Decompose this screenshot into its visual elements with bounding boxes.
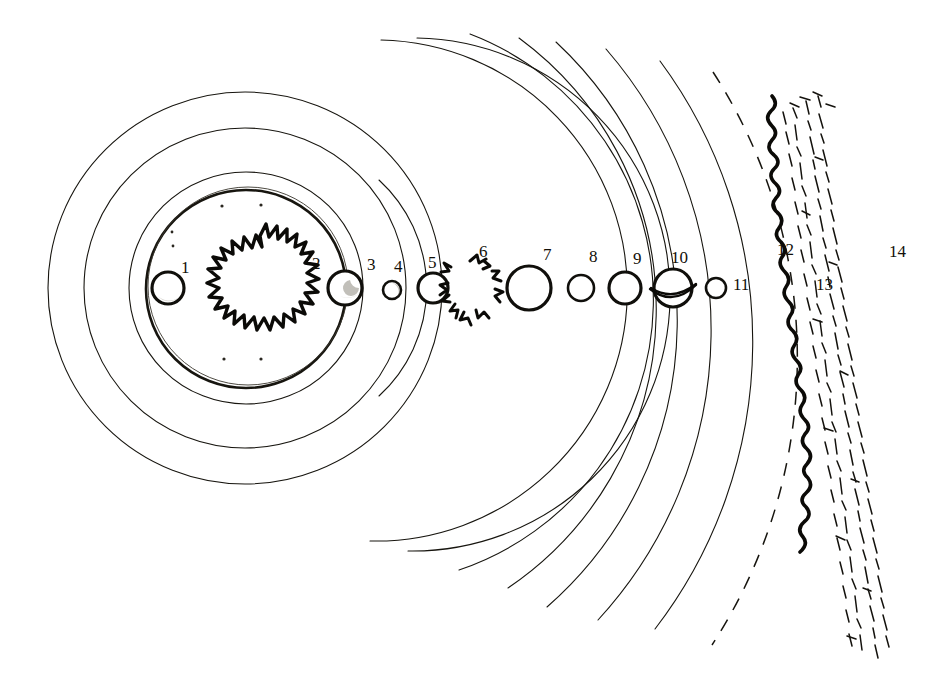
orbit-tick-dot [171, 231, 174, 234]
index-label-5: 5 [428, 254, 437, 271]
index-label-14: 14 [889, 243, 906, 260]
orbit-tick-dot [222, 357, 225, 360]
index-label-8: 8 [589, 248, 598, 265]
belt-streak-outer [818, 96, 889, 647]
solar-system-figure: 1 2 3 4 5 6 7 8 9 10 11 12 13 14 [0, 0, 938, 686]
orbit-dashed-13 [712, 72, 797, 645]
index-label-13: 13 [816, 276, 833, 293]
index-label-4: 4 [394, 258, 403, 275]
index-label-1: 1 [181, 259, 190, 276]
index-label-12: 12 [777, 241, 794, 258]
orbit-tick-dot [220, 204, 223, 207]
bodies-group [152, 224, 726, 330]
orbit-group [48, 34, 889, 658]
orbit-arc-9 [508, 38, 656, 588]
orbit-wiggle-14 [768, 96, 811, 552]
index-label-6: 6 [479, 243, 488, 260]
body-sun[interactable] [207, 224, 319, 330]
orbit-tick-dot [172, 245, 175, 248]
body-planet-11[interactable] [706, 278, 726, 298]
index-label-9: 9 [633, 250, 642, 267]
body-planet-4[interactable] [383, 281, 401, 299]
body-planet-9[interactable] [609, 272, 641, 304]
index-label-2: 2 [312, 255, 321, 272]
belt-streak-mid-outer [806, 101, 878, 658]
body-planet-3[interactable] [328, 271, 362, 305]
index-label-11: 11 [733, 276, 749, 293]
index-label-3: 3 [367, 256, 376, 273]
body-inner-planet-left[interactable] [152, 272, 184, 304]
solar-system-canvas [0, 0, 938, 686]
index-label-10: 10 [671, 249, 688, 266]
index-label-7: 7 [543, 246, 552, 263]
body-planet-7[interactable] [507, 266, 551, 310]
body-planet-10-ringed[interactable] [650, 269, 696, 307]
orbit-tick-dot [259, 203, 262, 206]
orbit-arc-11 [598, 49, 711, 620]
orbit-tick-dot [259, 357, 262, 360]
body-planet-8[interactable] [568, 275, 594, 301]
belt-streak-cross [790, 92, 871, 639]
